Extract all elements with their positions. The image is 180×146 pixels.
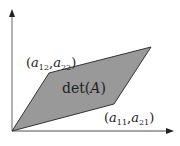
vector-a2-label: (a12,a22)	[26, 55, 76, 72]
determinant-diagram: det(A) (a12,a22) (a11,a21)	[0, 0, 180, 146]
x-axis-arrowhead-icon	[166, 128, 174, 134]
y-axis-arrowhead-icon	[9, 9, 15, 17]
vector-a1-label: (a11,a21)	[104, 110, 154, 127]
area-label: det(A)	[62, 80, 106, 96]
